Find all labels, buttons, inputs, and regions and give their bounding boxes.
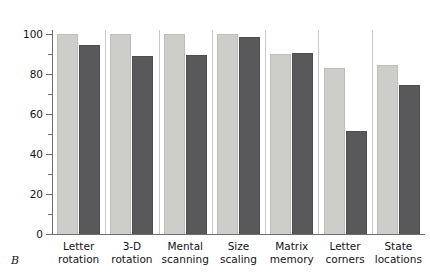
y-tick-label: 0 (3, 229, 43, 239)
category-label: Matrix memory (265, 240, 318, 265)
bar-group (52, 34, 105, 234)
bar-group (318, 34, 371, 234)
bar-dark (239, 37, 260, 234)
bar-group (265, 34, 318, 234)
y-tick-label: 20 (3, 189, 43, 199)
category-label: 3-D rotation (105, 240, 158, 265)
category-label: Letter rotation (52, 240, 105, 265)
bar-light (57, 34, 78, 234)
bar-dark (186, 55, 207, 234)
y-tick-major (46, 234, 52, 235)
bar-light (164, 34, 185, 234)
bar-light (110, 34, 131, 234)
category-label: Size scaling (212, 240, 265, 265)
bar-light (270, 54, 291, 234)
category-label: Mental scanning (159, 240, 212, 265)
bar-dark (346, 131, 367, 234)
y-tick-label: 60 (3, 109, 43, 119)
bar-light (217, 34, 238, 234)
category-label: State locations (372, 240, 425, 265)
category-label: Letter corners (318, 240, 371, 265)
bar-dark (132, 56, 153, 234)
bar-dark (399, 85, 420, 234)
bar-dark (292, 53, 313, 234)
bar-group (159, 34, 212, 234)
bar-light (377, 65, 398, 234)
y-tick-label: 80 (3, 69, 43, 79)
panel-letter: B (11, 254, 19, 267)
x-axis-line (52, 234, 425, 235)
plot-area (52, 34, 425, 234)
y-tick-label: 40 (3, 149, 43, 159)
y-tick-label: 100 (3, 29, 43, 39)
bar-group (212, 34, 265, 234)
bar-dark (79, 45, 100, 234)
bar-chart-figure: Percent correct 020406080100 Letter rota… (0, 0, 430, 280)
bar-group (372, 34, 425, 234)
bar-light (324, 68, 345, 234)
bar-group (105, 34, 158, 234)
